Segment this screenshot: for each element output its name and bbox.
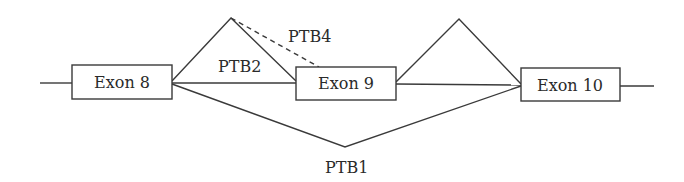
connector-exon9-exon10 — [396, 84, 521, 85]
exon-9-label: Exon 9 — [318, 74, 374, 93]
exon-8: Exon 8 — [72, 65, 172, 99]
splice-arc-exon9-exon10 — [396, 19, 521, 84]
exon-10-label: Exon 10 — [537, 76, 603, 95]
exon-10: Exon 10 — [521, 68, 620, 101]
ptb4-label: PTB4 — [288, 27, 331, 46]
exon-9: Exon 9 — [296, 67, 396, 100]
ptb1-label: PTB1 — [325, 158, 368, 177]
splicing-diagram: Exon 8 Exon 9 Exon 10 PTB4 PTB2 PTB1 — [0, 0, 684, 182]
exon-8-label: Exon 8 — [94, 73, 150, 92]
ptb2-label: PTB2 — [218, 57, 261, 76]
